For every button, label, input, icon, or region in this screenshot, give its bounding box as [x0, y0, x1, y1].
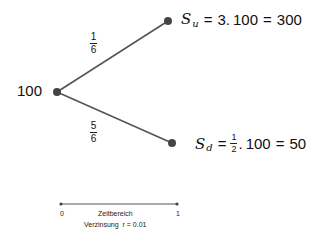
timeline-start-marker [59, 202, 62, 205]
down-symbol: S [195, 135, 205, 153]
binomial-tree-diagram [0, 0, 331, 243]
root-value-label: 100 [17, 82, 42, 99]
down-node [168, 139, 176, 147]
up-base: 100 [233, 11, 258, 28]
down-probability-numerator: 5 [91, 121, 97, 131]
down-factor-fraction: 1 2 [230, 133, 237, 154]
down-probability: 5 6 [90, 121, 97, 144]
up-result: 300 [277, 11, 302, 28]
up-symbol: S [181, 10, 191, 28]
down-probability-denominator: 6 [91, 134, 97, 144]
down-subscript: d [206, 142, 212, 153]
down-equals-1: = [218, 135, 227, 152]
up-probability-denominator: 6 [91, 45, 97, 55]
timeline-end-marker [175, 202, 178, 205]
up-node [164, 17, 172, 25]
timeline-title: Zeitbereich [98, 210, 133, 217]
up-branch-line [57, 21, 168, 92]
down-equals-2: = [276, 135, 285, 152]
timeline-end-label: 1 [176, 210, 180, 217]
up-equals-2: = [263, 11, 272, 28]
interest-rate-label: Verzinsung r = 0.01 [84, 221, 146, 228]
down-dot: . [238, 135, 242, 152]
down-factor-denominator: 2 [231, 145, 236, 154]
timeline-start-label: 0 [60, 210, 64, 217]
up-probability-numerator: 1 [91, 32, 97, 42]
down-branch-line [57, 92, 172, 143]
down-base: 100 [246, 135, 271, 152]
down-factor-numerator: 1 [231, 133, 236, 142]
up-subscript: u [192, 18, 198, 29]
up-factor: 3. [218, 11, 231, 28]
up-probability: 1 6 [90, 32, 97, 55]
down-value-formula: S d = 1 2 . 100 = 50 [195, 133, 306, 154]
up-equals-1: = [204, 11, 213, 28]
up-value-formula: S u = 3. 100 = 300 [181, 10, 302, 28]
down-result: 50 [289, 135, 306, 152]
root-node [53, 88, 61, 96]
